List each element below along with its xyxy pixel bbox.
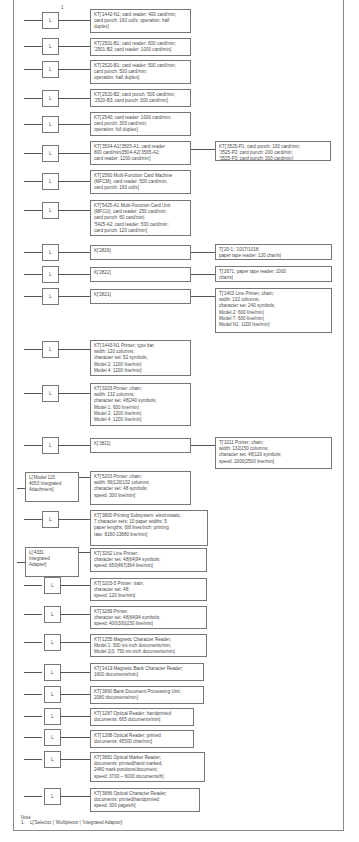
connector (60, 614, 90, 615)
bus-connector (24, 153, 42, 154)
kt-box-2501: KT['2501-B1; card reader: 600 card/min; … (90, 38, 191, 56)
t-box-1403: T['1403 Line Printer; chain; width: 132 … (215, 288, 332, 333)
connector (58, 296, 90, 297)
connector (79, 552, 90, 553)
bus-connector (24, 46, 42, 47)
l-box: L (42, 145, 59, 162)
footnote-marker: 1 (61, 5, 64, 10)
kt-box-3881: KT['3881 Optical Marker Reader; document… (90, 752, 205, 782)
bus-connector (24, 694, 42, 695)
kt-box-1288: KT['1288 Optical Reader; printed documen… (90, 730, 194, 748)
kt-box-5203: KT['5203 Printer; chain; width: 96|120|1… (90, 471, 191, 505)
connector (60, 716, 90, 717)
l-box-model-115: L['Model 115 4053 Integrated Attachment] (25, 472, 79, 502)
l-box: L (42, 288, 59, 305)
bus-connector (24, 445, 42, 446)
connector (58, 98, 90, 99)
connector (191, 274, 215, 275)
connector (60, 642, 90, 643)
bus-connector (24, 274, 42, 275)
l-box: L (42, 244, 59, 261)
kt-box-1442: KT['1442-N1; card reader: 400 card/min; … (90, 9, 191, 33)
k-box-2821: K['2821] (90, 289, 191, 304)
k-box-3811: K['3811] (90, 438, 191, 453)
connector (58, 181, 90, 182)
connector (58, 46, 90, 47)
kt-box-2520-b2: KT['2520-B2; card punch: 500 card/min; '… (90, 89, 191, 107)
bus-connector (24, 796, 42, 797)
kt-box-3262: KT['3262 Line Printer; character set: 48… (90, 548, 207, 572)
connector (58, 124, 90, 125)
kt-box-1419: KT['1419 Magnetic Bank Character Reader;… (90, 663, 204, 681)
kt-box-2540: KT['2540; card reader: 1000 card/min; ca… (90, 112, 191, 136)
kt-box-5425: KT['5425-A1 Multi-Function Card Unit (MF… (90, 200, 191, 236)
l-box: L (42, 173, 59, 190)
bus-connector (24, 296, 42, 297)
bus-connector (24, 642, 42, 643)
kt-box-3203-5: KT['3203-5 Printer: train; character set… (90, 578, 207, 601)
connector (60, 672, 90, 673)
connector (58, 153, 90, 154)
l-box: L (42, 116, 59, 133)
kt-box-3886: KT['3886 Optical Character Reader; docum… (90, 788, 200, 812)
connector (58, 519, 90, 520)
bus-connector (24, 614, 42, 615)
connector (79, 477, 90, 478)
connector (60, 759, 90, 760)
connector (58, 393, 90, 394)
connector (58, 210, 90, 211)
bus-connector (17, 488, 25, 489)
k-box-2826: K['2826] (90, 245, 191, 260)
l-box: L (42, 38, 59, 55)
kt-box-3890: KT['3890 Bank Document Processing Unit; … (90, 686, 204, 704)
connector (191, 296, 215, 297)
connector (60, 694, 90, 695)
kt-box-1287: KT['1287 Optical Reader; handprinted doc… (90, 708, 194, 726)
t-box-2671: T['2671; paper tape reader: 1000 char/s] (215, 266, 332, 282)
t-box-20-1: T['20-1; '1017/1018; paper tape reader: … (215, 244, 332, 260)
bus-connector (24, 124, 42, 125)
kt-box-3525: KT['3525-P1; card punch: 100 card/min; '… (215, 141, 331, 161)
connector (191, 149, 215, 150)
l-box: L (42, 202, 59, 219)
kt-box-3203: KT['3203 Printer: chain; width: 132 colu… (90, 383, 191, 426)
l-box: L (42, 61, 59, 78)
connector (58, 274, 90, 275)
l-box: L (44, 577, 61, 594)
bus-connector (24, 393, 42, 394)
connector (58, 252, 90, 253)
connector (58, 20, 90, 21)
l-box: L (42, 266, 59, 283)
l-box: L (42, 385, 59, 402)
bus-connector (24, 210, 42, 211)
bus-connector (24, 69, 42, 70)
l-box: L (42, 511, 59, 528)
bus-connector (24, 181, 42, 182)
bus-connector (24, 252, 42, 253)
connector (191, 445, 215, 446)
bus-connector (24, 759, 42, 760)
t-box-3211: T['3211 Printer; chain; width: 132|150 c… (215, 437, 332, 469)
connector (58, 445, 90, 446)
note-item-1: 1. L['Selector | 'Multiplexor | 'Integra… (21, 820, 122, 826)
l-box: L (42, 341, 59, 358)
l-box: L (42, 12, 59, 29)
l-box-4331: L['4331 Integrated Adapter] (25, 547, 79, 577)
kt-box-2520-b1: KT['2520-B1; card reader: 500 card/min; … (90, 60, 191, 84)
bus-connector (24, 349, 42, 350)
connector (58, 349, 90, 350)
bus-connector (24, 737, 42, 738)
l-box: L (44, 788, 61, 805)
connector (60, 796, 90, 797)
connector (60, 585, 90, 586)
kt-box-1255: KT['1255 Magnetic Character Reader; Mode… (90, 634, 207, 657)
bus-connector (24, 585, 42, 586)
bus-connector (24, 672, 42, 673)
l-box: L (42, 90, 59, 107)
l-box: L (44, 729, 61, 746)
l-box: L (44, 686, 61, 703)
connector (60, 737, 90, 738)
connector (58, 69, 90, 70)
l-box: L (44, 634, 61, 651)
kt-box-2560: KT['2560 Multi-Function Card Machine (MF… (90, 170, 191, 194)
